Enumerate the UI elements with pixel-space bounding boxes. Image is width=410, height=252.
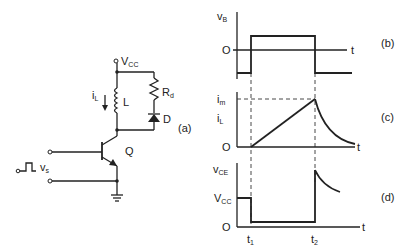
ground-icon <box>111 195 123 201</box>
vcc-terminal <box>114 59 118 63</box>
diode-label: D <box>163 113 171 125</box>
waveform-c-inductor-current: im iL O t (c) <box>217 92 394 153</box>
panel-b-label: (b) <box>381 37 394 49</box>
resistor-rd <box>150 78 158 100</box>
svg-text:t: t <box>351 44 354 56</box>
panel-d-label: (d) <box>381 191 394 203</box>
pulse-source-icon <box>16 163 36 173</box>
svg-text:O: O <box>222 141 231 153</box>
il-axis-label: iL <box>217 112 223 125</box>
circuit-diagram: VCC Rd D L iL <box>16 55 191 201</box>
inductor-l <box>115 88 118 113</box>
t2-label: t2 <box>311 233 318 246</box>
t1-label: t1 <box>247 233 254 246</box>
base-terminal <box>48 150 52 154</box>
current-label: iL <box>92 89 98 102</box>
ground-input-terminal <box>48 179 52 183</box>
transistor-q <box>102 130 117 181</box>
panel-c-label: (c) <box>381 111 394 123</box>
svg-text:t: t <box>357 141 360 153</box>
waveform-d-collector-voltage: vCE VCC O t t1 t2 (d) <box>213 163 394 246</box>
svg-text:O: O <box>222 221 231 233</box>
inductive-switching-figure: VCC Rd D L iL <box>0 0 410 252</box>
svg-text:O: O <box>222 44 231 56</box>
vce-axis-label: vCE <box>213 163 229 176</box>
source-label: vs <box>40 161 50 174</box>
resistor-label: Rd <box>162 86 174 99</box>
im-label: im <box>217 93 225 106</box>
svg-text:t: t <box>362 221 365 233</box>
transistor-label: Q <box>125 145 134 157</box>
diode-d <box>148 114 160 130</box>
panel-a-label: (a) <box>178 122 191 134</box>
waveform-b-base-voltage: vB O t (b) <box>217 10 394 79</box>
vb-axis-label: vB <box>217 10 228 23</box>
inductor-label: L <box>123 96 129 108</box>
vcc-label: VCC <box>121 55 138 68</box>
vcc-level-label: VCC <box>214 192 231 205</box>
